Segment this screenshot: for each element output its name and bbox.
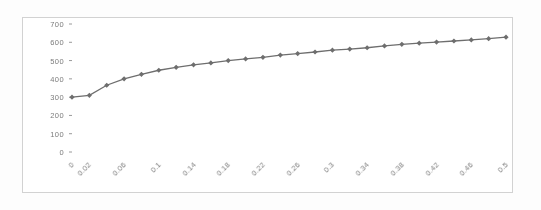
data-point-marker	[503, 35, 508, 40]
data-point-marker	[434, 40, 439, 45]
y-axis-tick-label: 400	[38, 74, 64, 83]
data-point-marker	[226, 58, 231, 63]
data-point-marker	[312, 49, 317, 54]
data-point-marker	[87, 93, 92, 98]
y-axis-tick-label: 300	[38, 93, 64, 102]
y-axis-tick-label: 600	[38, 38, 64, 47]
data-point-marker	[156, 68, 161, 73]
data-point-marker	[121, 76, 126, 81]
y-axis-tick-label: 500	[38, 56, 64, 65]
data-point-marker	[69, 95, 74, 100]
series-markers	[69, 35, 508, 100]
chart-image: 0100200300400500600700 00.020.060.10.140…	[0, 0, 541, 210]
series-polyline	[72, 37, 506, 97]
data-point-marker	[295, 51, 300, 56]
data-point-marker	[260, 55, 265, 60]
y-axis-tick-label: 0	[38, 148, 64, 157]
y-axis-tick-label: 200	[38, 111, 64, 120]
y-axis-tick-label: 100	[38, 129, 64, 138]
data-point-marker	[365, 45, 370, 50]
data-point-marker	[382, 43, 387, 48]
data-point-marker	[104, 83, 109, 88]
data-point-marker	[243, 56, 248, 61]
y-axis-tick-label: 700	[38, 20, 64, 29]
data-series-line	[69, 35, 508, 100]
data-point-marker	[278, 52, 283, 57]
data-point-marker	[139, 72, 144, 77]
data-point-marker	[191, 62, 196, 67]
data-point-marker	[347, 46, 352, 51]
data-point-marker	[469, 37, 474, 42]
data-point-marker	[208, 60, 213, 65]
data-point-marker	[174, 65, 179, 70]
data-point-marker	[330, 48, 335, 53]
data-point-marker	[399, 42, 404, 47]
data-point-marker	[451, 38, 456, 43]
data-point-marker	[486, 36, 491, 41]
data-point-marker	[417, 41, 422, 46]
